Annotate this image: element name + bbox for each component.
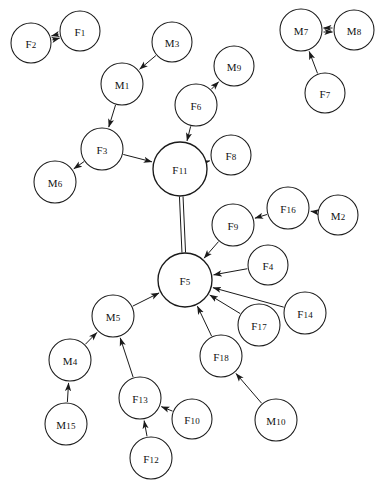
node-label: F17	[251, 320, 267, 333]
graph-node-f18[interactable]: F18	[200, 335, 242, 377]
graph-node-m5[interactable]: M5	[92, 295, 134, 337]
graph-node-f9[interactable]: F9	[212, 204, 254, 246]
node-label: F4	[262, 260, 273, 273]
graph-edge	[211, 82, 218, 89]
network-graph-svg: F2F1M3M1M9F6F3M6F11F8M7M8F7F16M2F9F4F5F1…	[0, 0, 379, 483]
node-label: F9	[227, 220, 238, 233]
node-label: M9	[227, 61, 242, 74]
node-label: F16	[280, 203, 296, 216]
node-label: M7	[294, 25, 309, 38]
node-label: M8	[347, 25, 362, 38]
node-label: F6	[190, 100, 201, 113]
graph-node-f8[interactable]: F8	[211, 135, 251, 175]
node-label: M5	[106, 311, 121, 324]
graph-edge	[255, 215, 267, 219]
node-label: F18	[213, 351, 229, 364]
node-label: F5	[179, 275, 190, 288]
graph-node-m4[interactable]: M4	[49, 339, 91, 381]
graph-edge	[85, 332, 97, 344]
node-label: F3	[96, 144, 107, 157]
graph-edge	[309, 51, 317, 73]
graph-node-m3[interactable]: M3	[152, 22, 192, 62]
graph-node-f1[interactable]: F1	[60, 11, 100, 51]
graph-edge	[210, 295, 240, 314]
graph-edge	[207, 161, 210, 162]
graph-edge	[179, 196, 185, 252]
graph-edge	[51, 34, 59, 40]
node-label: F10	[184, 414, 200, 427]
node-label: F12	[143, 453, 159, 466]
graph-node-f12[interactable]: F12	[130, 437, 172, 479]
graph-node-f3[interactable]: F3	[81, 128, 123, 170]
graph-node-f2[interactable]: F2	[11, 23, 51, 63]
node-label: M4	[63, 355, 78, 368]
graph-edge	[236, 373, 262, 403]
graph-node-f11[interactable]: F11	[153, 142, 207, 196]
node-label: F7	[319, 88, 330, 101]
graph-node-f14[interactable]: F14	[284, 292, 326, 334]
node-label: F13	[132, 393, 148, 406]
graph-edge	[324, 28, 333, 32]
graph-edge	[109, 105, 116, 127]
graph-node-m8[interactable]: M8	[334, 10, 374, 50]
graph-node-f4[interactable]: F4	[248, 245, 288, 285]
node-label: F14	[297, 308, 313, 321]
graph-edge	[120, 338, 133, 377]
graph-edge	[311, 211, 317, 212]
graph-edge	[74, 162, 84, 169]
graph-node-f17[interactable]: F17	[238, 304, 280, 346]
graph-node-f13[interactable]: F13	[119, 377, 161, 419]
graph-edge	[67, 383, 68, 402]
graph-node-m15[interactable]: M15	[45, 403, 87, 445]
graph-edge	[123, 154, 152, 161]
network-graph-canvas: F2F1M3M1M9F6F3M6F11F8M7M8F7F16M2F9F4F5F1…	[0, 0, 379, 483]
graph-edge	[214, 269, 248, 275]
node-label: F11	[172, 164, 187, 177]
node-label: M1	[115, 79, 130, 92]
graph-edge	[197, 306, 211, 336]
graph-node-f6[interactable]: F6	[175, 84, 217, 126]
graph-node-f16[interactable]: F16	[267, 187, 309, 229]
node-layer: F2F1M3M1M9F6F3M6F11F8M7M8F7F16M2F9F4F5F1…	[11, 9, 374, 479]
node-label: M6	[48, 177, 63, 190]
node-label: M2	[331, 210, 346, 223]
graph-node-m7[interactable]: M7	[280, 9, 322, 51]
node-label: F2	[25, 38, 36, 51]
graph-node-f10[interactable]: F10	[172, 399, 212, 439]
graph-edge	[133, 293, 159, 306]
node-label: F1	[74, 26, 85, 39]
graph-edge	[144, 421, 147, 437]
graph-edge	[187, 126, 191, 141]
graph-node-m9[interactable]: M9	[214, 46, 254, 86]
graph-node-f7[interactable]: F7	[305, 73, 345, 113]
graph-node-m1[interactable]: M1	[101, 63, 143, 105]
node-label: F8	[225, 150, 236, 163]
graph-edge	[161, 407, 172, 412]
graph-node-f5[interactable]: F5	[158, 253, 212, 307]
node-label: M10	[266, 415, 286, 428]
node-label: M3	[165, 37, 180, 50]
graph-node-m6[interactable]: M6	[34, 161, 76, 203]
graph-node-m10[interactable]: M10	[255, 399, 297, 441]
graph-edge	[213, 288, 284, 307]
graph-edge	[140, 56, 156, 70]
graph-edge	[204, 242, 218, 259]
node-label: M15	[56, 419, 76, 432]
graph-node-m2[interactable]: M2	[318, 195, 358, 235]
